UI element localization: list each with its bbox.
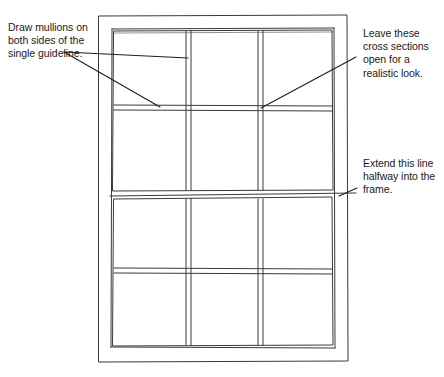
upper-sash-top-edge	[114, 32, 332, 33]
drawing-canvas: Draw mullions on both sides of the singl…	[0, 0, 444, 377]
annotation-leave-cross-sections: Leave these cross sections open for a re…	[363, 27, 443, 80]
inner-frame	[111, 28, 335, 348]
outer-frame	[99, 15, 348, 362]
leader-lines	[64, 52, 357, 196]
annotation-extend-line: Extend this line halfway into the frame.	[363, 157, 444, 197]
lower-sash	[113, 197, 333, 346]
meeting-rail-line	[110, 193, 356, 196]
upper-sash	[113, 30, 333, 191]
annotation-draw-mullions: Draw mullions on both sides of the singl…	[8, 21, 100, 61]
leader-cross-section	[261, 57, 356, 108]
